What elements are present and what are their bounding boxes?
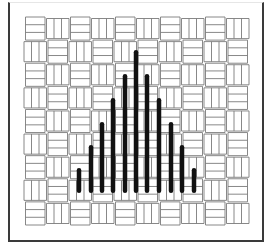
- bar-2: [89, 145, 94, 193]
- bar-8: [157, 98, 162, 193]
- bar-1: [77, 168, 82, 193]
- triangle-bars: [77, 50, 197, 193]
- bar-9: [169, 122, 174, 193]
- bar-5: [123, 74, 128, 193]
- basket-weave-diagram: [0, 0, 271, 247]
- bar-3: [100, 122, 105, 193]
- bar-6: [134, 50, 139, 193]
- bar-10: [180, 145, 185, 193]
- bar-11: [192, 168, 197, 193]
- bar-7: [145, 74, 150, 193]
- bar-4: [111, 98, 116, 193]
